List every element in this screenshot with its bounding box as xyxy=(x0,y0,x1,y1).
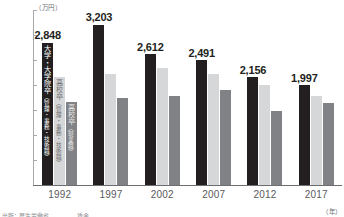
bar-chart: （万円） （年） 05001,0001,5002,0002,5003,0003,… xyxy=(0,0,344,217)
legend-label-series1: 高校卒（管理・事務・技術職） xyxy=(54,79,65,166)
bar-2012-series0[interactable]: 2,156 xyxy=(247,77,258,185)
bar-group: 3,203 xyxy=(85,10,136,185)
x-axis-labels: 199219972002200720122017 xyxy=(34,186,342,204)
x-axis-label-2007: 2007 xyxy=(188,186,239,204)
bar-2002-series0[interactable]: 2,612 xyxy=(145,54,156,185)
bar-2017-series1[interactable] xyxy=(311,96,322,185)
bar-2002-series1[interactable] xyxy=(157,68,168,185)
bar-2017-series2[interactable] xyxy=(323,103,334,185)
bar-value-label: 2,612 xyxy=(137,41,164,53)
bar-group: 2,612 xyxy=(137,10,188,185)
bar-groups: 2,848大学・大学院卒（管理・事務・技術職）高校卒（管理・事務・技術職）高校卒… xyxy=(34,10,342,185)
x-axis-label-1997: 1997 xyxy=(85,186,136,204)
x-axis-label-1992: 1992 xyxy=(34,186,85,204)
bar-2012-series1[interactable] xyxy=(259,85,270,186)
bar-group: 2,848大学・大学院卒（管理・事務・技術職）高校卒（管理・事務・技術職）高校卒… xyxy=(34,10,85,185)
bar-group: 2,491 xyxy=(188,10,239,185)
bar-group: 2,156 xyxy=(239,10,290,185)
bar-1992-series1[interactable]: 高校卒（管理・事務・技術職） xyxy=(54,77,65,186)
plot-area: 2,848大学・大学院卒（管理・事務・技術職）高校卒（管理・事務・技術職）高校卒… xyxy=(34,10,342,185)
bar-2012-series2[interactable] xyxy=(271,111,282,185)
bar-2007-series0[interactable]: 2,491 xyxy=(196,60,207,185)
bar-2007-series1[interactable] xyxy=(208,74,219,186)
bar-value-label: 3,203 xyxy=(86,11,113,23)
source-note: 出所：厚生労働省 賃金 xyxy=(2,211,89,217)
bar-1997-series0[interactable]: 3,203 xyxy=(93,25,104,185)
x-axis-label-2017: 2017 xyxy=(291,186,342,204)
x-axis-label-2012: 2012 xyxy=(239,186,290,204)
bar-group: 1,997 xyxy=(291,10,342,185)
bar-1997-series2[interactable] xyxy=(117,98,128,185)
bar-value-label: 2,848 xyxy=(34,29,61,41)
bar-2007-series2[interactable] xyxy=(220,90,231,185)
x-axis-unit-label: （年） xyxy=(322,206,342,216)
bar-2002-series2[interactable] xyxy=(169,96,180,185)
legend-label-series0: 大学・大学院卒（管理・事務・技術職） xyxy=(42,45,53,160)
bar-value-label: 2,156 xyxy=(240,64,267,76)
bar-value-label: 2,491 xyxy=(188,47,215,59)
bar-1992-series0[interactable]: 2,848大学・大学院卒（管理・事務・技術職） xyxy=(42,43,53,185)
legend-label-series2: 高校卒（現業職） xyxy=(66,104,77,155)
bar-value-label: 1,997 xyxy=(291,72,318,84)
bar-1992-series2[interactable]: 高校卒（現業職） xyxy=(66,102,77,186)
x-axis-label-2002: 2002 xyxy=(137,186,188,204)
bar-1997-series1[interactable] xyxy=(105,74,116,186)
bar-2017-series0[interactable]: 1,997 xyxy=(299,85,310,185)
